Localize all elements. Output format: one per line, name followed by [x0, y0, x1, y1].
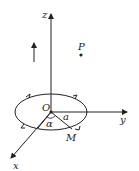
point-m-label: M	[65, 132, 77, 143]
angle-label: α	[46, 118, 53, 129]
radius-label: a	[63, 111, 69, 122]
z-axis-label: z	[41, 9, 48, 20]
point-p-label: P	[77, 41, 85, 52]
loop-arrow-icon	[75, 126, 80, 130]
origin-label: O	[42, 102, 50, 113]
x-axis-label: x	[13, 160, 19, 171]
y-axis-label: y	[119, 114, 126, 125]
current-loop-diagram: z y x O a α M P	[0, 0, 139, 171]
point-p-dot	[79, 53, 82, 56]
loop-arrow-icon	[26, 94, 30, 98]
